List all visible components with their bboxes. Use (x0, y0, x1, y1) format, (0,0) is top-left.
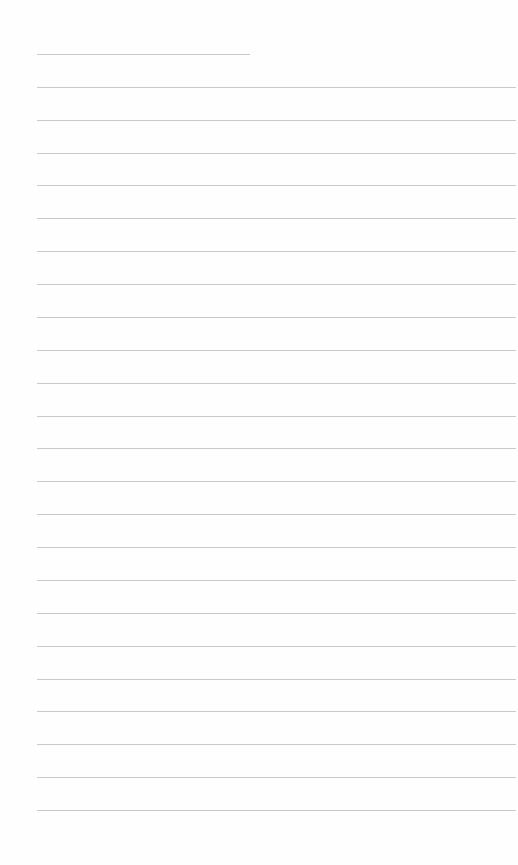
ruled-line (37, 120, 516, 121)
ruled-line (37, 777, 516, 778)
ruled-line (37, 514, 516, 515)
ruled-line (37, 646, 516, 647)
ruled-line (37, 416, 516, 417)
ruled-line (37, 153, 516, 154)
ruled-line (37, 218, 516, 219)
ruled-line (37, 284, 516, 285)
ruled-line (37, 251, 516, 252)
ruled-line (37, 317, 516, 318)
ruled-line (37, 350, 516, 351)
ruled-line (37, 744, 516, 745)
ruled-line (37, 383, 516, 384)
ruled-line (37, 87, 516, 88)
ruled-line (37, 613, 516, 614)
ruled-line (37, 580, 516, 581)
ruled-line (37, 185, 516, 186)
ruled-line (37, 448, 516, 449)
ruled-line (37, 810, 516, 811)
header-rule-line (37, 54, 250, 55)
ruled-line (37, 547, 516, 548)
ruled-line (37, 711, 516, 712)
lined-paper (0, 0, 518, 865)
ruled-line (37, 481, 516, 482)
ruled-line (37, 679, 516, 680)
